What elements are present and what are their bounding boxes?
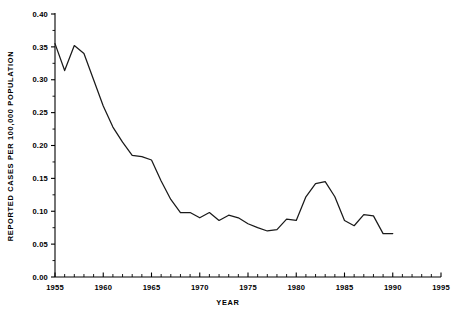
x-axis-tick-label: 1970 (191, 283, 209, 292)
y-axis-tick-labels: 0.000.050.100.150.200.250.300.350.40 (32, 10, 48, 282)
y-axis-tick-label: 0.25 (32, 108, 48, 117)
series-line (55, 44, 393, 234)
x-axis-tick-label: 1990 (384, 283, 402, 292)
x-axis-tick-labels: 195519601965197019751980198519901995 (46, 283, 450, 292)
chart-figure: 0.000.050.100.150.200.250.300.350.40 195… (0, 0, 454, 319)
y-axis-tick-label: 0.35 (32, 43, 48, 52)
y-axis-tick-label: 0.10 (32, 207, 48, 216)
line-chart: 0.000.050.100.150.200.250.300.350.40 195… (0, 0, 454, 319)
y-axis-tick-label: 0.40 (32, 10, 48, 19)
y-axis-tick-label: 0.30 (32, 75, 48, 84)
x-axis-tick-label: 1980 (287, 283, 305, 292)
x-axis-title: YEAR (216, 298, 239, 307)
y-axis-tick-label: 0.05 (32, 240, 48, 249)
x-axis-tick-label: 1995 (432, 283, 450, 292)
x-axis-tick-label: 1955 (46, 283, 64, 292)
y-axis-tick-label: 0.15 (32, 174, 48, 183)
y-axis-tick-label: 0.00 (32, 273, 48, 282)
x-axis-tick-label: 1975 (239, 283, 257, 292)
x-axis-tick-label: 1960 (94, 283, 112, 292)
y-axis-title: REPORTED CASES PER 100,000 POPULATION (6, 51, 15, 241)
axes (51, 13, 441, 277)
x-axis-tick-label: 1985 (336, 283, 354, 292)
x-axis-tick-label: 1965 (143, 283, 161, 292)
y-axis-tick-label: 0.20 (32, 141, 48, 150)
data-series (55, 44, 393, 234)
